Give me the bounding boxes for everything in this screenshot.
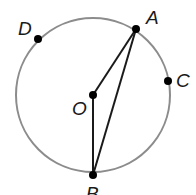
point-C [164, 77, 172, 85]
point-D [34, 35, 42, 43]
segments [93, 29, 136, 175]
segment-AB [93, 29, 136, 175]
label-C: C [176, 70, 190, 91]
points [34, 25, 172, 179]
point-O [89, 91, 97, 99]
point-B [89, 171, 97, 179]
label-O: O [72, 98, 87, 119]
label-D: D [18, 18, 32, 39]
label-A: A [145, 7, 159, 28]
label-B: B [86, 183, 99, 195]
segment-OA [93, 29, 136, 95]
circle-diagram: ACDOB [0, 0, 196, 195]
point-A [132, 25, 140, 33]
